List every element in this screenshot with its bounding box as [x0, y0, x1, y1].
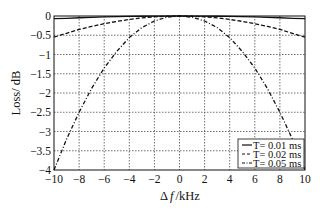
y-tick-labels: 0−0.5−1−1.5−2−2.5−3−3.5−4: [30, 10, 51, 176]
x-tick-labels: −10−8−6−4−20246810: [45, 173, 311, 185]
svg-text:Δf/kHz: Δf/kHz: [160, 189, 200, 203]
x-tick-label: −6: [98, 173, 110, 185]
loss-chart: −10−8−6−4−20246810 0−0.5−1−1.5−2−2.5−3−3…: [0, 0, 320, 212]
y-tick-label: −0.5: [30, 29, 51, 41]
y-tick-label: −1: [39, 49, 51, 61]
x-tick-label: −4: [123, 173, 135, 185]
y-tick-label: −4: [39, 164, 51, 176]
x-tick-label: 2: [202, 173, 208, 185]
x-tick-label: 4: [227, 173, 233, 185]
y-axis-label: Loss/ dB: [9, 71, 23, 116]
legend-label-2: T= 0.05 ms: [253, 158, 301, 169]
x-tick-label: 10: [299, 173, 311, 185]
x-tick-label: 0: [177, 173, 183, 185]
x-tick-label: −2: [148, 173, 160, 185]
y-tick-label: −1.5: [30, 68, 51, 80]
y-tick-label: −2: [39, 87, 51, 99]
y-tick-label: −2.5: [30, 106, 51, 118]
y-tick-label: −3.5: [30, 145, 51, 157]
x-axis-label: Δf/kHz: [160, 189, 200, 203]
legend: T= 0.01 ms T= 0.02 ms T= 0.05 ms: [238, 139, 304, 169]
x-tick-label: 6: [252, 173, 258, 185]
y-tick-label: −3: [39, 126, 51, 138]
y-tick-label: 0: [45, 10, 51, 22]
x-tick-label: 8: [277, 173, 283, 185]
x-tick-label: −8: [73, 173, 85, 185]
